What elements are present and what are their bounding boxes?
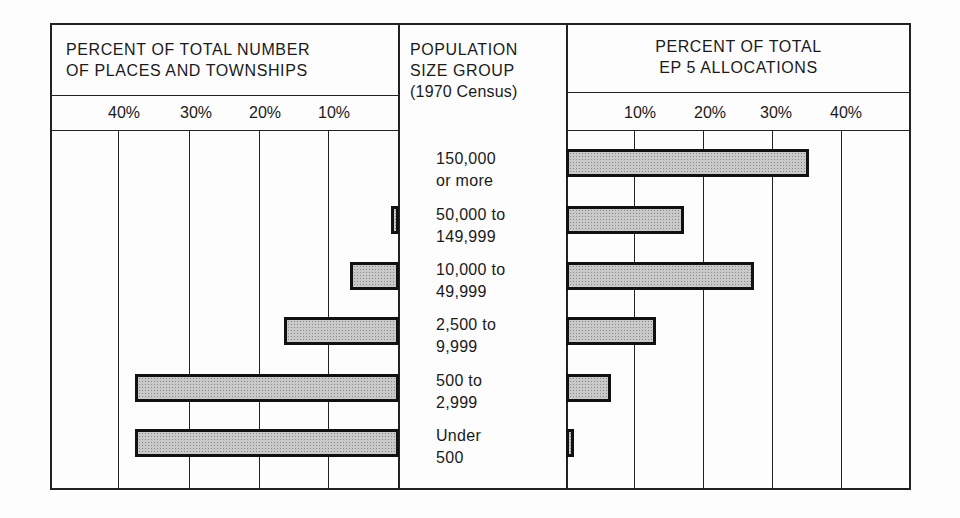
left-header-line-2: OF PLACES AND TOWNSHIPS	[66, 60, 310, 81]
category-line: Under	[436, 425, 481, 447]
left-tick-20: 20%	[249, 104, 281, 122]
category-line: 150,000	[436, 148, 496, 170]
center-column-header: POPULATION SIZE GROUP (1970 Census)	[410, 39, 518, 102]
right-bar	[566, 429, 574, 457]
header-divider-left	[50, 95, 398, 96]
right-tick-40: 40%	[830, 104, 862, 122]
right-tick-10: 10%	[624, 104, 656, 122]
category-label: Under 500	[436, 425, 481, 469]
category-label: 2,500 to 9,999	[436, 314, 496, 358]
category-line: 10,000 to	[436, 259, 505, 281]
right-bar	[566, 206, 684, 234]
right-bar	[566, 149, 809, 177]
tick-row-bottom-right	[566, 130, 911, 131]
category-label: 50,000 to 149,999	[436, 204, 505, 248]
right-gridline-20	[703, 130, 704, 490]
left-bar	[391, 206, 399, 234]
category-label: 500 to 2,999	[436, 370, 482, 414]
category-label: 10,000 to 49,999	[436, 259, 505, 303]
right-bar	[566, 317, 656, 345]
left-bar	[284, 317, 399, 345]
right-gridline-10	[634, 130, 635, 490]
right-axis-zero-line	[566, 23, 568, 490]
left-bar	[135, 374, 399, 402]
category-line: 2,500 to	[436, 314, 496, 336]
center-header-line-1: POPULATION	[410, 39, 518, 60]
right-bar	[566, 374, 611, 402]
left-gridline-40	[118, 130, 119, 490]
left-header-line-1: PERCENT OF TOTAL NUMBER	[66, 39, 310, 60]
category-line: 149,999	[436, 226, 505, 248]
category-line: 500 to	[436, 370, 482, 392]
center-header-line-3: (1970 Census)	[410, 81, 518, 102]
right-bar	[566, 262, 754, 290]
right-tick-20: 20%	[694, 104, 726, 122]
category-line: 50,000 to	[436, 204, 505, 226]
left-panel-header: PERCENT OF TOTAL NUMBER OF PLACES AND TO…	[66, 39, 310, 81]
right-panel-header: PERCENT OF TOTAL EP 5 ALLOCATIONS	[566, 36, 911, 78]
right-header-line-2: EP 5 ALLOCATIONS	[566, 57, 911, 78]
left-tick-30: 30%	[180, 104, 212, 122]
category-line: 500	[436, 447, 481, 469]
right-tick-30: 30%	[760, 104, 792, 122]
right-gridline-30	[772, 130, 773, 490]
center-header-line-2: SIZE GROUP	[410, 60, 518, 81]
right-gridline-40	[841, 130, 842, 490]
category-line: 9,999	[436, 336, 496, 358]
left-bar	[350, 262, 399, 290]
left-tick-40: 40%	[108, 104, 140, 122]
category-line: or more	[436, 170, 496, 192]
left-bar	[135, 429, 399, 457]
right-header-line-1: PERCENT OF TOTAL	[566, 36, 911, 57]
left-axis-zero-line	[398, 23, 400, 490]
left-tick-10: 10%	[318, 104, 350, 122]
tick-row-bottom-left	[50, 130, 398, 131]
header-divider-right	[566, 92, 911, 93]
category-label: 150,000 or more	[436, 148, 496, 192]
category-line: 2,999	[436, 392, 482, 414]
category-line: 49,999	[436, 281, 505, 303]
